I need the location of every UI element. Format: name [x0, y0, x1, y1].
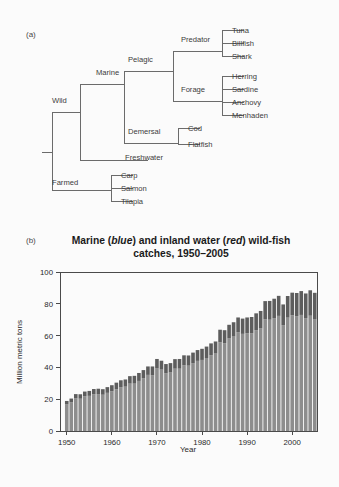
- bar-marine-1989: [241, 334, 245, 431]
- bar-marine-1960: [110, 391, 114, 431]
- bar-marine-1955: [88, 396, 92, 431]
- tree-node-tuna: Tuna: [232, 26, 250, 35]
- bar-marine-1956: [92, 394, 96, 431]
- bar-inland-water-1978: [191, 353, 195, 363]
- bar-marine-1951: [69, 402, 73, 431]
- y-tick-label-0: 0: [49, 427, 54, 436]
- bar-marine-1953: [78, 399, 82, 431]
- bar-inland-water-2002: [299, 291, 303, 315]
- panel-a-tree-diagram: (a): [0, 0, 339, 222]
- tree-node-cod: Cod: [188, 124, 202, 133]
- y-axis-title: Million metric tons: [15, 320, 24, 384]
- tree-node-tilapia: Tilapia: [121, 197, 144, 206]
- bar-marine-1998: [281, 325, 285, 431]
- bar-marine-1959: [106, 393, 110, 431]
- bar-inland-water-1961: [115, 383, 119, 390]
- bar-marine-1963: [124, 387, 128, 431]
- bar-marine-1966: [137, 381, 141, 431]
- bar-inland-water-1970: [155, 359, 159, 368]
- bar-inland-water-1956: [92, 389, 96, 394]
- bar-inland-water-1953: [78, 394, 82, 398]
- bar-marine-2005: [313, 319, 317, 431]
- y-tick-label-60: 60: [44, 332, 53, 341]
- bar-marine-1958: [101, 395, 105, 431]
- bar-inland-water-1974: [173, 359, 177, 369]
- tree-node-sardine: Sardine: [232, 85, 258, 94]
- bar-inland-water-1959: [106, 387, 110, 393]
- tree-node-carp: Carp: [121, 171, 137, 180]
- bar-inland-water-1973: [169, 363, 173, 372]
- bar-inland-water-1990: [245, 317, 249, 333]
- bar-inland-water-1983: [214, 341, 218, 353]
- bar-marine-1965: [133, 384, 137, 431]
- bar-marine-1969: [151, 375, 155, 431]
- bar-inland-water-1955: [88, 391, 92, 396]
- bar-marine-1952: [74, 398, 78, 431]
- bar-marine-1987: [232, 337, 236, 431]
- bar-inland-water-1994: [263, 301, 267, 319]
- bar-marine-1967: [142, 378, 146, 431]
- bar-marine-1999: [286, 318, 290, 431]
- bar-inland-water-2001: [295, 293, 299, 316]
- bar-inland-water-1958: [101, 389, 105, 395]
- tree-node-shark: Shark: [232, 52, 252, 61]
- x-tick-label-1970: 1970: [148, 438, 166, 447]
- bar-inland-water-1969: [151, 366, 155, 375]
- bar-inland-water-1980: [200, 349, 204, 360]
- x-tick-label-2000: 2000: [284, 438, 302, 447]
- tree-node-pelagic: Pelagic: [128, 55, 153, 64]
- bar-marine-1996: [272, 318, 276, 431]
- bar-marine-1992: [254, 330, 258, 431]
- bar-marine-1954: [83, 396, 87, 431]
- bar-inland-water-1985: [223, 330, 227, 343]
- tree-node-demersal: Demersal: [128, 127, 161, 136]
- tree-svg: WildFarmedMarineFreshwaterPelagicDemersa…: [0, 0, 339, 222]
- bar-marine-1994: [263, 319, 267, 431]
- bar-marine-1964: [128, 384, 132, 431]
- panel-b-chart: (b) Marine (blue) and inland water (red)…: [0, 222, 339, 487]
- bar-inland-water-1972: [164, 364, 168, 373]
- bar-inland-water-1999: [286, 296, 290, 318]
- figure-page: (a): [0, 0, 339, 487]
- tree-node-marine: Marine: [96, 68, 119, 77]
- bar-inland-water-2003: [304, 293, 308, 318]
- bar-marine-2000: [290, 315, 294, 431]
- tree-node-anchovy: Anchovy: [232, 98, 261, 107]
- bar-inland-water-1989: [241, 319, 245, 334]
- bar-inland-water-1957: [97, 389, 101, 394]
- bar-inland-water-1984: [218, 330, 222, 343]
- bar-inland-water-1998: [281, 304, 285, 325]
- bar-marine-2004: [308, 316, 312, 431]
- y-tick-label-40: 40: [44, 363, 53, 372]
- y-tick-label-80: 80: [44, 300, 53, 309]
- bar-marine-1975: [178, 369, 182, 431]
- bar-inland-water-1976: [182, 355, 186, 365]
- bar-marine-1981: [205, 358, 209, 431]
- bar-inland-water-1991: [250, 317, 254, 333]
- bar-series-group: [65, 290, 317, 431]
- bar-inland-water-2000: [290, 293, 294, 316]
- plot-svg: 020406080100195019601970198019902000 Yea…: [0, 222, 339, 487]
- bar-inland-water-1967: [142, 370, 146, 378]
- x-tick-label-1950: 1950: [58, 438, 76, 447]
- bar-inland-water-1962: [119, 380, 123, 387]
- tree-node-flatfish: Flatfish: [188, 140, 212, 149]
- x-tick-label-1960: 1960: [103, 438, 121, 447]
- bar-marine-1950: [65, 404, 69, 431]
- bar-marine-1973: [169, 372, 173, 431]
- bar-inland-water-1996: [272, 299, 276, 318]
- bar-inland-water-1993: [259, 311, 263, 328]
- bar-inland-water-1965: [133, 376, 137, 384]
- bar-inland-water-1964: [128, 376, 132, 383]
- bar-inland-water-1981: [205, 347, 209, 358]
- bar-marine-1974: [173, 369, 177, 431]
- bar-marine-2001: [295, 316, 299, 431]
- bar-marine-1968: [146, 375, 150, 431]
- bar-marine-1980: [200, 360, 204, 431]
- bar-marine-1997: [277, 316, 281, 431]
- bar-marine-1970: [155, 368, 159, 431]
- x-axis-title: Year: [180, 445, 197, 454]
- bar-inland-water-1992: [254, 313, 258, 330]
- bar-marine-1984: [218, 342, 222, 431]
- bar-inland-water-1987: [232, 322, 236, 336]
